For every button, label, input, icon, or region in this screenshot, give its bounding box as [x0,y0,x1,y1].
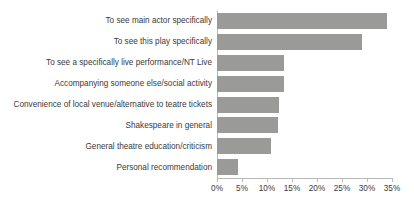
bar-chart: To see main actor specificallyTo see thi… [0,0,414,215]
bar-row [217,136,392,157]
bar [217,159,238,175]
bar [217,13,387,29]
category-label: Personal recommendation [0,163,212,173]
category-label: Accompanying someone else/social activit… [0,79,212,89]
bar-track [217,55,392,71]
category-label: To see this play specifically [0,37,212,47]
bar-row [217,95,392,116]
bar-track [217,76,392,92]
x-tick-mark [342,178,343,182]
bar-track [217,138,392,154]
bar [217,55,284,71]
x-tick-mark [267,178,268,182]
bar-row [217,115,392,136]
x-tick-mark [392,178,393,182]
category-label: Convenience of local venue/alternative t… [0,100,212,110]
x-tick-mark [292,178,293,182]
bar [217,117,278,133]
bar-track [217,97,392,113]
bar-row [217,53,392,74]
bar-track [217,34,392,50]
x-tick-mark [317,178,318,182]
bar-row [217,157,392,178]
x-tick-label: 35% [377,184,407,194]
x-tick-mark [242,178,243,182]
x-tick-mark [367,178,368,182]
bar [217,97,279,113]
bar-track [217,117,392,133]
bar-track [217,159,392,175]
category-label: To see a specifically live performance/N… [0,58,212,68]
bar [217,76,284,92]
bar-track [217,13,392,29]
bar-row [217,32,392,53]
x-tick-mark [217,178,218,182]
category-label: Shakespeare in general [0,121,212,131]
bar-row [217,11,392,32]
plot-area [217,11,392,178]
bar-row [217,74,392,95]
category-label: To see main actor specifically [0,16,212,26]
category-label: General theatre education/criticism [0,142,212,152]
bar [217,138,271,154]
bar [217,34,362,50]
